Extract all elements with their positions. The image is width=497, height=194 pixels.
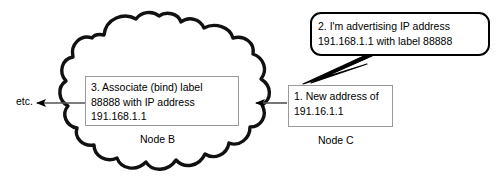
diagram-canvas: 3. Associate (bind) label 88888 with IP … [0,0,497,194]
speech-bubble-tail [303,55,372,84]
node-c-label: Node C [318,134,354,146]
new-address-note: 1. New address of 191.16.1.1 [288,85,393,127]
advertisement-speech-bubble: 2. I'm advertising IP address 191.168.1.… [310,12,490,56]
etc-label: etc. [16,95,33,107]
bind-label-note: 3. Associate (bind) label 88888 with IP … [85,76,239,126]
node-b-label: Node B [140,133,175,145]
